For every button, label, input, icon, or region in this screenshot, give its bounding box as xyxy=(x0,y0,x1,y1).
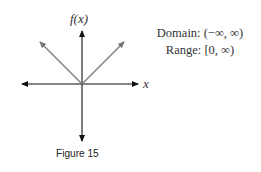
y-axis-label: f(x) xyxy=(70,11,88,27)
range-text: Range: [0, ∞) xyxy=(150,42,250,59)
x-axis-label: x xyxy=(143,76,149,92)
domain-range-text: Domain: (−∞, ∞) Range: [0, ∞) xyxy=(150,25,250,59)
figure-caption: Figure 15 xyxy=(56,147,99,159)
figure-canvas: f(x) x Domain: (−∞, ∞) Range: [0, ∞) Fig… xyxy=(0,0,261,172)
domain-text: Domain: (−∞, ∞) xyxy=(150,25,250,42)
